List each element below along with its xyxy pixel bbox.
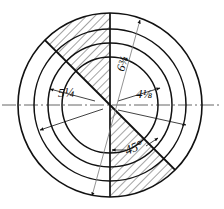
diagonal-diameter-label: 6¾ — [113, 55, 131, 73]
technical-drawing: 5¼ 4⅛ 6¾ 45° — [0, 0, 224, 209]
right-diameter-label: 4⅛ — [136, 86, 153, 101]
left-diameter-label: 5¼ — [58, 85, 75, 100]
drawing-canvas: 5¼ 4⅛ 6¾ 45° — [0, 0, 224, 209]
upper-hatched-sector — [45, 13, 110, 105]
